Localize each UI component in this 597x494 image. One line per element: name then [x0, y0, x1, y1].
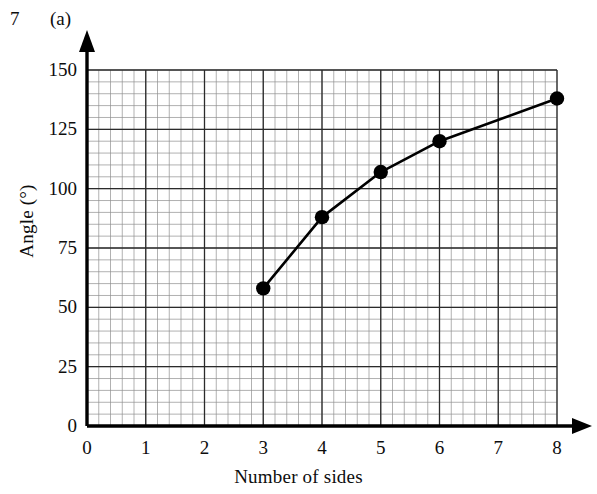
x-tick-label: 6	[425, 438, 455, 457]
data-points	[256, 91, 564, 295]
y-tick-label: 125	[15, 119, 77, 138]
y-tick-label: 0	[15, 416, 77, 435]
y-tick-label: 150	[15, 60, 77, 79]
x-tick-label: 7	[483, 438, 513, 457]
chart-page: 7 (a) Angle (°) Number of sides 02550751…	[0, 0, 597, 494]
y-tick-label: 25	[15, 357, 77, 376]
x-tick-label: 1	[131, 438, 161, 457]
x-tick-label: 2	[190, 438, 220, 457]
x-tick-label: 5	[366, 438, 396, 457]
x-tick-label: 8	[542, 438, 572, 457]
x-tick-label: 3	[248, 438, 278, 457]
y-tick-label: 100	[15, 179, 77, 198]
y-tick-label: 50	[15, 297, 77, 316]
y-tick-label: 75	[15, 238, 77, 257]
x-tick-label: 0	[72, 438, 102, 457]
chart-plot	[0, 0, 597, 494]
chart-axes	[79, 30, 592, 434]
x-tick-label: 4	[307, 438, 337, 457]
